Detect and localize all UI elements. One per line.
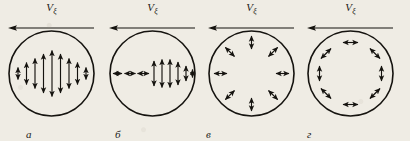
circle-g [306,29,395,118]
velocity-subscript-b: ξ [154,7,158,16]
panel-b: Vξ [101,0,204,141]
circle-a [7,29,96,118]
panel-a: Vξ [0,0,103,141]
circle-v [207,29,296,118]
circle-b [108,29,197,118]
velocity-label-b: Vξ [101,1,204,16]
panel-letter-a: а [26,128,32,140]
panel-letter-g: г [307,128,311,140]
velocity-subscript-g: ξ [352,7,356,16]
vertical-arrow-group-a [18,51,86,97]
circle-g-diagram [306,29,395,118]
radial-arrow-group-v [214,36,289,111]
velocity-subscript-a: ξ [53,7,57,16]
tangential-arrow-group-g [320,43,382,105]
panel-v: Vξ [200,0,303,141]
circle-b-diagram [108,29,197,118]
circle-a-diagram [7,29,96,118]
velocity-label-v: Vξ [200,1,303,16]
circle-v-diagram [207,29,296,118]
panel-letter-b: б [115,128,121,140]
velocity-subscript-v: ξ [253,7,257,16]
panel-letter-v: в [206,128,211,140]
panel-g: Vξ [299,0,402,141]
vertical-arrow-group-b [154,60,193,88]
wave-polarization-figure: Vξ [0,0,410,141]
velocity-label-g: Vξ [299,1,402,16]
velocity-label-a: Vξ [0,1,103,16]
